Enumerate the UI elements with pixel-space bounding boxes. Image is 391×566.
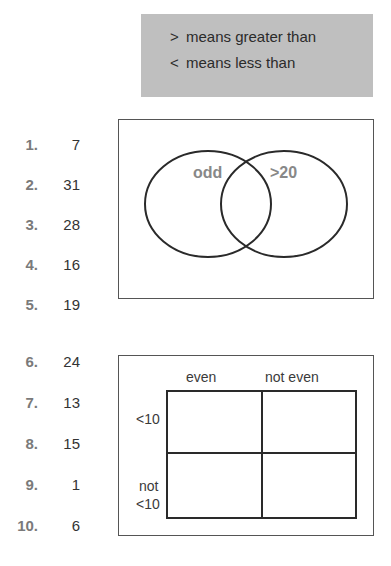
question-number: 3. <box>8 216 38 233</box>
question-number: 8. <box>8 435 38 452</box>
question-value: 31 <box>40 176 80 193</box>
key-box: >means greater than <means less than <box>141 14 373 97</box>
carroll-diagram-panel: even not even <10 not <10 <box>118 355 374 536</box>
question-number: 1. <box>8 136 38 153</box>
venn-label-odd: odd <box>193 164 222 182</box>
question-number: 5. <box>8 296 38 313</box>
question-number: 6. <box>8 353 38 370</box>
question-value: 15 <box>40 435 80 452</box>
venn-diagram-panel: odd >20 <box>118 119 374 299</box>
key-line-greater: >means greater than <box>170 28 316 45</box>
question-value: 7 <box>40 136 80 153</box>
question-value: 1 <box>40 476 80 493</box>
question-number: 9. <box>8 476 38 493</box>
venn-diagram <box>119 120 375 300</box>
question-number: 10. <box>8 517 38 534</box>
question-value: 16 <box>40 256 80 273</box>
carroll-grid <box>119 356 375 537</box>
key-text: means greater than <box>186 28 316 45</box>
question-value: 28 <box>40 216 80 233</box>
key-text: means less than <box>186 54 295 71</box>
question-number: 7. <box>8 394 38 411</box>
question-number: 2. <box>8 176 38 193</box>
key-line-less: <means less than <box>170 54 295 71</box>
question-value: 6 <box>40 517 80 534</box>
question-value: 24 <box>40 353 80 370</box>
question-value: 19 <box>40 296 80 313</box>
venn-label-gt20: >20 <box>270 164 297 182</box>
question-value: 13 <box>40 394 80 411</box>
less-than-symbol: < <box>170 54 186 71</box>
question-number: 4. <box>8 256 38 273</box>
greater-than-symbol: > <box>170 28 186 45</box>
